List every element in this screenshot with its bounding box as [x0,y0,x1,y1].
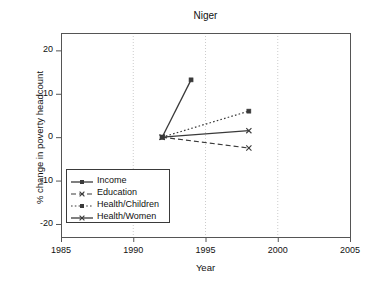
legend-swatch-icon [67,186,97,198]
series-line-3 [162,131,249,138]
y-tick-label: -10 [23,175,53,185]
y-tick-label: -20 [23,218,53,228]
x-tick-label: 2005 [330,245,370,255]
y-tick-label: 20 [23,44,53,54]
legend-swatch-icon [67,174,97,186]
x-tick-label: 1995 [186,245,226,255]
legend-swatch-icon [67,210,97,222]
x-tick-label: 1990 [113,245,153,255]
series-line-0 [162,80,191,137]
legend-swatch-icon [67,198,97,210]
y-tick-label: 0 [23,131,53,141]
series-0-marker-square [189,78,193,82]
plot-area [0,0,377,283]
chart-legend: IncomeEducationHealth/ChildrenHealth/Wom… [66,169,170,223]
series-2-marker-square [247,109,251,113]
legend-line-sample [67,212,97,224]
series-1-marker-x [246,145,251,150]
chart-figure: Niger % change in poverty headcount Year… [0,0,377,283]
legend-label: Health/Children [97,198,159,210]
legend-item-3: Health/Women [67,209,171,222]
x-tick-label: 1985 [41,245,81,255]
legend-label: Education [97,186,137,198]
legend-label: Income [97,174,127,186]
x-tick-label: 2000 [258,245,298,255]
legend-label: Health/Women [97,210,156,222]
y-tick-label: 10 [23,88,53,98]
